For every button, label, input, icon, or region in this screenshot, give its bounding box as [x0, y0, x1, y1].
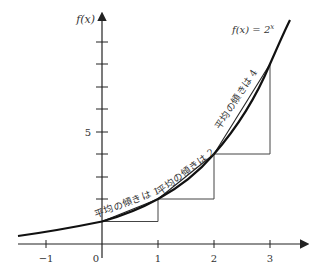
exponential-curve: [18, 20, 290, 236]
x-tick-label: 1: [155, 253, 161, 264]
exponential-diagram: −1 0 1 2 3 5 f(x) f(x) = 2x 平均の傾きは 1 平均の…: [0, 0, 317, 275]
y-axis-label: f(x): [75, 13, 95, 26]
secant-label-2: 平均の傾きは 2: [155, 146, 217, 196]
y-tick-label: 5: [85, 127, 91, 138]
x-tick-label: 0: [93, 253, 99, 264]
x-tick-label: −1: [39, 253, 54, 264]
function-label: f(x) = 2x: [231, 23, 274, 35]
x-tick-label: 3: [267, 253, 273, 264]
x-tick-label: 2: [211, 253, 217, 264]
